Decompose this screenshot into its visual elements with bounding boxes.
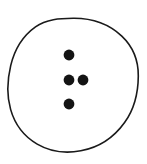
- button-hole-middle-right: [78, 75, 89, 86]
- button-hole-bottom: [64, 99, 75, 110]
- button-hole-middle-left: [64, 75, 75, 86]
- button-hole-top: [64, 50, 75, 61]
- button-drawing: [0, 0, 147, 164]
- figure-canvas: Four-hole button outline drawing: [0, 0, 147, 164]
